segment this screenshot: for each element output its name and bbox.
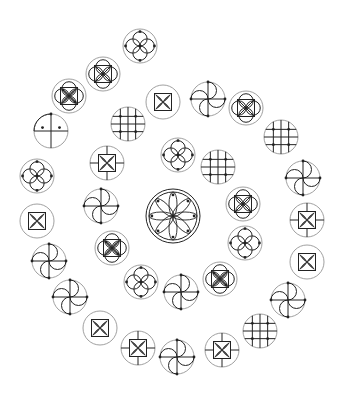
symbol-swirl [163, 274, 200, 311]
symbol-leaf-square-ring [203, 262, 237, 296]
symbol-swirl [159, 339, 196, 376]
symbol-petal-square [226, 187, 260, 221]
center-rosette [146, 189, 200, 243]
symbol-swirl [190, 81, 227, 118]
symbol-grid-nodes [111, 107, 145, 141]
symbol-four-petal [228, 226, 262, 260]
symbol-grid-nodes [201, 150, 235, 184]
symbol-swirl [270, 282, 307, 319]
symbol-leaf-square-cross [290, 203, 324, 237]
symbol-spiral [0, 0, 346, 402]
symbol-four-petal [123, 29, 157, 63]
symbol-leaf-square-cross [121, 331, 155, 365]
symbol-quarter-grid [34, 113, 68, 148]
symbol-leaf-square [290, 245, 324, 279]
symbol-swirl [52, 279, 89, 316]
symbol-leaf-square-ring [95, 231, 129, 265]
symbol-grid-nodes [243, 314, 277, 348]
symbol-petal-square [86, 57, 120, 91]
symbol-swirl [83, 188, 120, 225]
symbol-grid-nodes [264, 120, 298, 154]
symbol-leaf-square [146, 85, 180, 119]
symbol-four-petal [20, 159, 54, 193]
symbol-four-petal [124, 265, 158, 299]
symbol-swirl [31, 243, 68, 280]
symbol-leaf-square [83, 311, 117, 345]
symbol-leaf-square [20, 204, 54, 238]
symbol-swirl [285, 160, 322, 197]
symbol-leaf-square-cross [90, 146, 124, 180]
symbol-square-leaf-ring [52, 79, 86, 113]
symbol-four-petal [161, 138, 195, 172]
symbol-petal-square [229, 91, 263, 125]
symbol-leaf-square-cross [205, 333, 239, 367]
